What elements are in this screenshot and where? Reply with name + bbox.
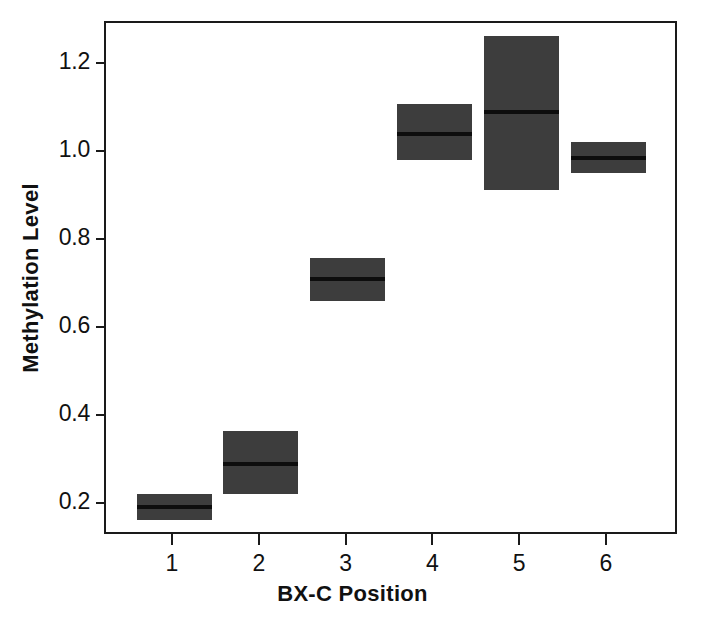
x-axis-tick-label: 3 [326, 550, 366, 577]
median-line [571, 156, 646, 160]
x-axis-tick-label: 1 [152, 550, 192, 577]
x-axis-tick [605, 534, 607, 545]
y-axis-title-text: Methylation Level [18, 183, 44, 373]
plot-area [106, 23, 675, 532]
x-axis-tick [431, 534, 433, 545]
data-box [310, 258, 385, 301]
plot-frame [104, 21, 677, 534]
y-axis-tick-label: 0.8 [30, 224, 90, 251]
data-box [571, 142, 646, 173]
x-axis-tick [258, 534, 260, 545]
data-box [223, 431, 298, 494]
data-box [137, 494, 212, 520]
data-box [397, 104, 472, 160]
y-axis-tick-label: 0.4 [30, 400, 90, 427]
median-line [397, 132, 472, 136]
x-axis-tick [518, 534, 520, 545]
median-line [310, 277, 385, 281]
data-box [484, 36, 559, 190]
y-axis-tick-label: 0.2 [30, 488, 90, 515]
x-axis-tick [345, 534, 347, 545]
y-axis-tick-label: 0.6 [30, 312, 90, 339]
x-axis-tick-label: 6 [586, 550, 626, 577]
median-line [223, 462, 298, 466]
x-axis-tick-label: 2 [239, 550, 279, 577]
median-line [484, 110, 559, 114]
median-line [137, 505, 212, 509]
y-axis-tick-label: 1.2 [30, 48, 90, 75]
x-axis-tick [171, 534, 173, 545]
x-axis-title: BX-C Position [0, 581, 705, 607]
methylation-level-chart: Methylation Level 0.20.40.60.81.01.2 123… [0, 0, 705, 626]
x-axis-tick-label: 5 [499, 550, 539, 577]
y-axis-tick-label: 1.0 [30, 136, 90, 163]
x-axis-tick-label: 4 [412, 550, 452, 577]
y-axis-title: Methylation Level [18, 21, 44, 534]
